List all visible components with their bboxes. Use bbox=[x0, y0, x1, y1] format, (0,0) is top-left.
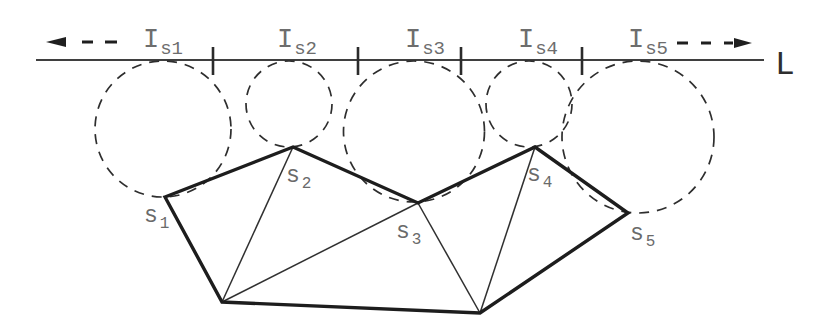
line-L-label: L bbox=[775, 47, 795, 84]
triangulation-diagonal-b2-s3 bbox=[418, 203, 480, 313]
empty-circle-s4 bbox=[486, 61, 572, 147]
site-vertex-label-s3: s3 bbox=[396, 219, 421, 249]
site-vertex-label-subscript-s5: 5 bbox=[646, 233, 656, 251]
empty-circle-s1 bbox=[95, 61, 231, 197]
interval-label-Is3: Is3 bbox=[405, 25, 445, 60]
interval-label-Is5: Is5 bbox=[628, 25, 668, 60]
voronoi-intervals-diagram: L Is1Is2Is3Is4Is5 s1s2s3s4s5 bbox=[0, 0, 824, 336]
site-vertex-label-subscript-s4: 4 bbox=[543, 174, 553, 192]
interval-label-Is2: Is2 bbox=[277, 25, 317, 60]
interval-label-subscript-s2: s2 bbox=[294, 38, 317, 60]
interval-label-subscript-s5: s5 bbox=[645, 38, 668, 60]
interval-labels-group: Is1Is2Is3Is4Is5 bbox=[143, 25, 668, 60]
site-vertex-label-s2: s2 bbox=[286, 163, 311, 193]
interval-label-subscript-s4: s4 bbox=[535, 38, 558, 60]
site-vertex-label-subscript-s1: 1 bbox=[160, 215, 170, 233]
right-arrowhead-icon bbox=[734, 38, 752, 48]
site-vertex-label-subscript-s2: 2 bbox=[302, 175, 312, 193]
interval-label-Is4: Is4 bbox=[518, 25, 558, 60]
figure-canvas: L Is1Is2Is3Is4Is5 s1s2s3s4s5 bbox=[0, 0, 824, 336]
empty-circle-s5 bbox=[562, 61, 714, 213]
site-vertex-label-s4: s4 bbox=[527, 162, 552, 192]
site-vertex-label-s1: s1 bbox=[144, 203, 169, 233]
triangulation-diagonal-b1-s3 bbox=[222, 203, 418, 302]
interval-label-subscript-s1: s1 bbox=[160, 38, 183, 60]
site-vertex-label-s5: s5 bbox=[630, 221, 655, 251]
empty-circles-group bbox=[95, 61, 714, 213]
site-vertex-label-subscript-s3: 3 bbox=[412, 231, 422, 249]
interval-label-subscript-s3: s3 bbox=[422, 38, 445, 60]
empty-circle-s2 bbox=[246, 61, 332, 147]
left-arrowhead-icon bbox=[46, 37, 66, 47]
interval-label-Is1: Is1 bbox=[143, 25, 183, 60]
